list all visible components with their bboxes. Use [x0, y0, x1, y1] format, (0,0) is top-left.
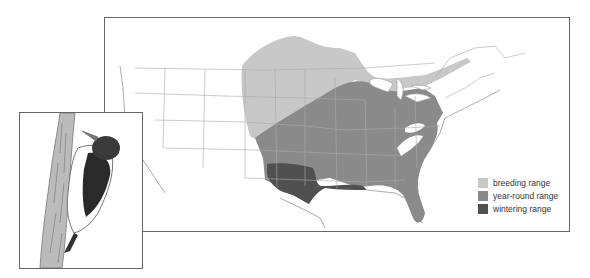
bird-beak — [82, 131, 98, 141]
year-round-swatch — [478, 191, 488, 201]
map-legend: breeding range year-round range winterin… — [478, 176, 558, 215]
legend-item-breeding: breeding range — [478, 176, 558, 189]
legend-item-year-round: year-round range — [478, 189, 558, 202]
bird-tail — [64, 233, 78, 253]
legend-item-wintering: wintering range — [478, 202, 558, 215]
legend-label: breeding range — [493, 178, 550, 188]
bird-illustration-inset — [19, 112, 143, 269]
wintering-swatch — [478, 204, 488, 214]
woodpecker-illustration — [20, 113, 142, 268]
legend-label: year-round range — [493, 191, 558, 201]
legend-label: wintering range — [493, 204, 551, 214]
breeding-swatch — [478, 178, 488, 188]
